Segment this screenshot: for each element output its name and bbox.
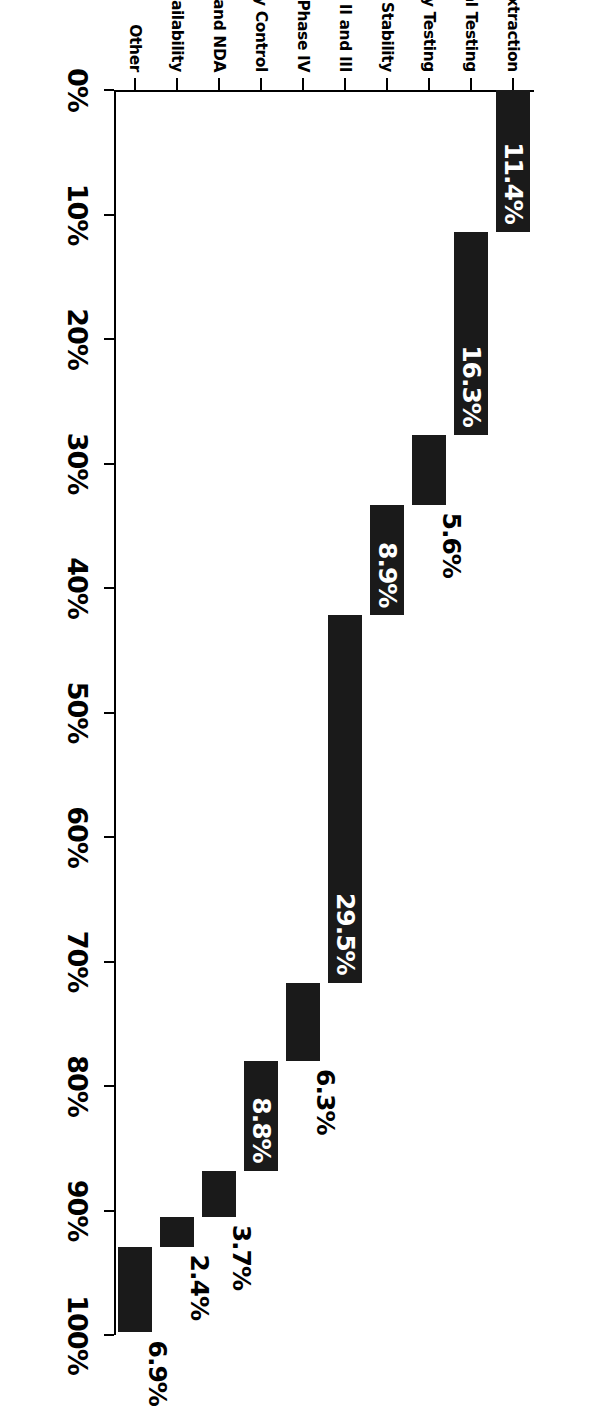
category-tick [470, 78, 472, 90]
bar [160, 1217, 194, 1247]
category-label: Regulatory: IND and NDA [210, 0, 228, 72]
percent-tick-label: 60% [62, 806, 93, 868]
percent-tick-label: 20% [62, 308, 93, 370]
bar [286, 983, 320, 1061]
bar-value-label: 6.3% [312, 1069, 337, 1134]
category-label: Other [126, 24, 144, 72]
percent-tick [104, 463, 114, 465]
percent-axis-line [114, 90, 116, 1335]
bar [202, 1171, 236, 1217]
category-tick [218, 78, 220, 90]
percent-tick [104, 961, 114, 963]
bar-value-label: 8.9% [375, 542, 400, 607]
bar-value-label: 6.9% [144, 1341, 169, 1406]
category-label: Biological Screening and Pharmacological… [462, 0, 480, 72]
percent-tick-label: 50% [62, 682, 93, 744]
plot-area: 0%10%20%30%40%50%60%70%80%90%100% Synthe… [114, 90, 534, 1335]
percent-tick [104, 1334, 114, 1336]
category-label: Process Development for Manufacturing an… [252, 0, 270, 72]
category-tick [260, 78, 262, 90]
category-tick [344, 78, 346, 90]
bar-value-label: 2.4% [186, 1255, 211, 1320]
percent-tick [104, 1210, 114, 1212]
category-tick [302, 78, 304, 90]
category-label: Pharmaceutical Dosage Formulation and St… [378, 0, 396, 72]
bar-value-label: 5.6% [438, 513, 463, 578]
category-axis-line [114, 90, 534, 92]
bar-value-label: 29.5% [333, 893, 358, 975]
category-tick [176, 78, 178, 90]
percent-tick [104, 836, 114, 838]
category-label: Clinical Evaluation: Phases I, II and II… [336, 0, 354, 72]
bar-value-label: 11.4% [501, 142, 526, 224]
percent-tick [104, 338, 114, 340]
percent-tick-label: 80% [62, 1055, 93, 1117]
percent-tick-label: 10% [62, 184, 93, 246]
category-tick [428, 78, 430, 90]
percent-tick-label: 90% [62, 1180, 93, 1242]
percent-tick [104, 712, 114, 714]
category-label: Bioavailability [168, 0, 186, 72]
bar-value-label: 3.7% [228, 1225, 253, 1290]
category-tick [134, 78, 136, 90]
percent-tick [104, 1085, 114, 1087]
category-tick [386, 78, 388, 90]
percent-tick [104, 214, 114, 216]
percent-tick-label: 70% [62, 931, 93, 993]
percent-tick-label: 30% [62, 433, 93, 495]
bar-value-label: 16.3% [459, 345, 484, 427]
bar [412, 435, 446, 505]
percent-tick-label: 0% [62, 68, 93, 112]
percent-tick-label: 100% [62, 1295, 93, 1374]
bar-value-label: 8.8% [249, 1097, 274, 1162]
category-label: Synthesis and Extraction [504, 0, 522, 72]
percent-tick [104, 89, 114, 91]
category-tick [512, 78, 514, 90]
percent-tick [104, 587, 114, 589]
percent-tick-label: 40% [62, 557, 93, 619]
bar [118, 1247, 152, 1333]
category-label: Toxicology and Safety Testing [420, 0, 438, 72]
category-label: Clinical Evaluation: Phase IV [294, 0, 312, 72]
